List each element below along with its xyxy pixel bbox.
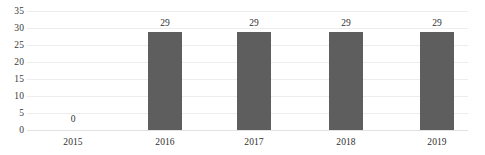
x-tick-label-2019: 2019 (427, 137, 446, 148)
x-tick-label-2015: 2015 (63, 137, 82, 148)
bar-2016 (148, 32, 182, 130)
value-label-2018: 29 (341, 18, 351, 28)
value-label-2017: 29 (249, 18, 259, 28)
bar-chart: 35 30 25 20 15 10 5 0 0 29 29 29 29 2015… (0, 0, 485, 155)
value-label-2015: 0 (71, 114, 76, 124)
bar-2017 (237, 32, 271, 130)
value-label-2019: 29 (432, 18, 442, 28)
bars-layer: 0 29 29 29 29 (0, 0, 485, 155)
x-tick-label-2016: 2016 (155, 137, 174, 148)
x-tick-label-2018: 2018 (336, 137, 355, 148)
x-axis: 2015 2016 2017 2018 2019 (0, 134, 485, 155)
value-label-2016: 29 (160, 18, 170, 28)
bar-2019 (420, 32, 454, 130)
x-tick-label-2017: 2017 (244, 137, 263, 148)
bar-2018 (329, 32, 363, 130)
